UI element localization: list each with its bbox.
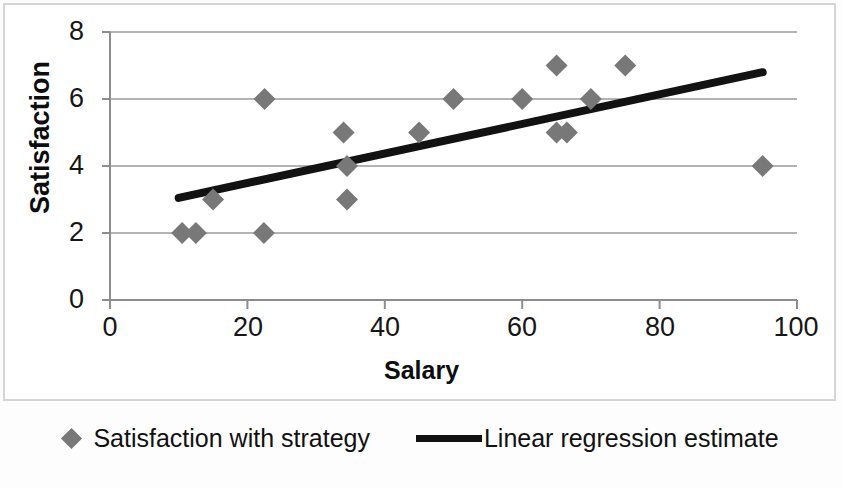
scatter-points-group: [171, 55, 774, 245]
scatter-point: [254, 88, 276, 110]
legend-item-scatter[interactable]: Satisfaction with strategy: [64, 424, 370, 453]
scatter-point: [336, 189, 358, 211]
scatter-point: [185, 222, 207, 244]
axis-ticks-group: [102, 32, 797, 309]
line-marker-icon: [416, 435, 482, 442]
scatter-point: [614, 55, 636, 77]
scatter-point: [333, 122, 355, 144]
scatter-point: [546, 55, 568, 77]
scatter-point: [253, 222, 275, 244]
diamond-marker-icon: [61, 428, 82, 449]
scatter-point: [511, 88, 533, 110]
scatter-point: [443, 88, 465, 110]
scatter-point: [752, 155, 774, 177]
legend-item-line[interactable]: Linear regression estimate: [416, 424, 779, 453]
plot-area: [0, 0, 843, 400]
legend-label-line: Linear regression estimate: [484, 424, 779, 453]
legend-label-scatter: Satisfaction with strategy: [93, 424, 370, 453]
chart-legend: Satisfaction with strategy Linear regres…: [0, 424, 843, 453]
chart-figure: Satisfaction 8 6 4 2 0 0 20 40 60 80 100…: [0, 0, 843, 488]
scatter-point: [408, 122, 430, 144]
